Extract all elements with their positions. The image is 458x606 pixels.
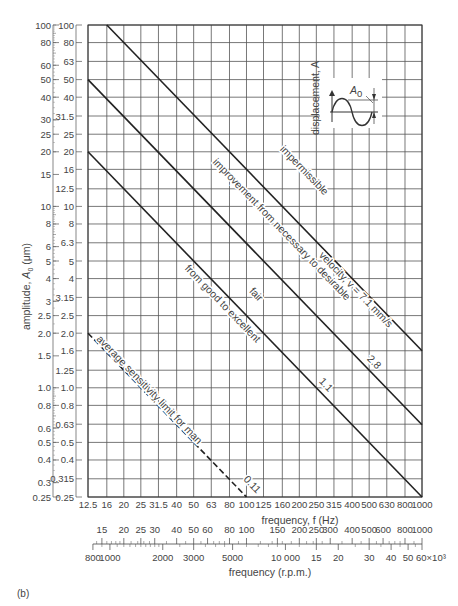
- svg-text:0: 0: [357, 88, 362, 99]
- svg-text:0.11: 0.11: [242, 473, 264, 496]
- svg-text:6: 6: [46, 241, 51, 252]
- svg-text:from good to excellent: from good to excellent: [183, 262, 264, 345]
- svg-text:50: 50: [40, 74, 51, 85]
- x-tick-label: 16: [102, 499, 113, 510]
- x-tick-label: 1000: [411, 499, 432, 510]
- svg-text:1.6: 1.6: [61, 345, 74, 356]
- x-tick-label: 200: [291, 499, 307, 510]
- svg-text:amplitude, A0 (μm): amplitude, A0 (μm): [20, 243, 34, 330]
- x-tick-label: 12.5: [79, 499, 98, 510]
- svg-text:0.5: 0.5: [61, 437, 74, 448]
- svg-text:80: 80: [40, 37, 51, 48]
- svg-text:40: 40: [386, 552, 397, 563]
- svg-text:60: 60: [40, 60, 51, 71]
- svg-text:15: 15: [40, 169, 51, 180]
- x-tick-label: 25: [136, 499, 147, 510]
- svg-text:0.4: 0.4: [61, 454, 74, 465]
- x-tick-label: 400: [344, 499, 360, 510]
- svg-text:25: 25: [136, 524, 147, 535]
- svg-text:0.8: 0.8: [61, 400, 74, 411]
- svg-text:0.3: 0.3: [38, 477, 51, 488]
- svg-text:30: 30: [149, 524, 160, 535]
- svg-text:600: 600: [375, 524, 391, 535]
- svg-text:15: 15: [97, 524, 108, 535]
- svg-text:2.5: 2.5: [38, 310, 51, 321]
- svg-text:30: 30: [364, 552, 375, 563]
- axis-ticks: 12.516202531.540506380100125160200250315…: [33, 20, 446, 564]
- x-tick-label: 315: [326, 499, 342, 510]
- svg-text:12.5: 12.5: [56, 183, 75, 194]
- svg-text:2000: 2000: [152, 552, 173, 563]
- svg-text:63: 63: [63, 56, 74, 67]
- x-tick-label: 50: [188, 499, 199, 510]
- x-tick-label: 160: [274, 499, 290, 510]
- svg-text:1.25: 1.25: [56, 365, 75, 376]
- svg-text:frequency (r.p.m.): frequency (r.p.m.): [229, 566, 311, 578]
- x-tick-label: 63: [206, 499, 217, 510]
- svg-text:3: 3: [46, 296, 51, 307]
- x-tick-label: 100: [239, 499, 255, 510]
- svg-text:20: 20: [63, 146, 74, 157]
- svg-text:0.5: 0.5: [38, 437, 51, 448]
- svg-text:50: 50: [188, 524, 199, 535]
- svg-text:20: 20: [40, 146, 51, 157]
- svg-text:5: 5: [46, 256, 51, 267]
- svg-text:0.4: 0.4: [38, 454, 51, 465]
- svg-text:0.25: 0.25: [33, 492, 52, 503]
- svg-text:0.8: 0.8: [38, 400, 51, 411]
- svg-text:20: 20: [333, 552, 344, 563]
- svg-text:20: 20: [119, 524, 130, 535]
- svg-text:6.3: 6.3: [61, 237, 74, 248]
- vibration-chart: 12.516202531.540506380100125160200250315…: [0, 0, 458, 606]
- svg-text:A: A: [349, 84, 357, 96]
- svg-text:1000: 1000: [99, 552, 120, 563]
- svg-text:displacement, A: displacement, A: [309, 61, 321, 135]
- svg-text:100: 100: [239, 524, 255, 535]
- svg-text:1.5: 1.5: [38, 350, 51, 361]
- svg-text:5000: 5000: [222, 552, 243, 563]
- x-tick-label: 630: [379, 499, 395, 510]
- svg-text:2.0: 2.0: [61, 328, 74, 339]
- svg-text:1.0: 1.0: [38, 382, 51, 393]
- svg-text:10 000: 10 000: [271, 552, 300, 563]
- svg-text:8: 8: [69, 218, 74, 229]
- x-tick-label: 500: [361, 499, 377, 510]
- svg-text:60×10³: 60×10³: [416, 552, 446, 563]
- svg-text:80: 80: [224, 524, 235, 535]
- svg-text:10: 10: [40, 201, 51, 212]
- svg-text:40: 40: [40, 92, 51, 103]
- svg-text:0.6: 0.6: [38, 423, 51, 434]
- x-tick-label: 40: [171, 499, 182, 510]
- svg-text:1.0: 1.0: [61, 382, 74, 393]
- svg-text:100: 100: [35, 20, 51, 31]
- svg-text:frequency, f (Hz): frequency, f (Hz): [262, 514, 339, 526]
- svg-text:1000: 1000: [411, 524, 432, 535]
- svg-text:400: 400: [344, 524, 360, 535]
- x-tick-label: 125: [256, 499, 272, 510]
- svg-text:100: 100: [58, 20, 74, 31]
- x-tick-label: 250: [308, 499, 324, 510]
- svg-text:16: 16: [63, 164, 74, 175]
- svg-text:2.5: 2.5: [61, 310, 74, 321]
- svg-text:60: 60: [202, 524, 213, 535]
- svg-text:3000: 3000: [183, 552, 204, 563]
- svg-text:50: 50: [63, 74, 74, 85]
- svg-text:25: 25: [63, 129, 74, 140]
- x-tick-label: 20: [119, 499, 130, 510]
- svg-text:40: 40: [171, 524, 182, 535]
- figure-caption: (b): [17, 588, 29, 599]
- svg-text:2.0: 2.0: [38, 328, 51, 339]
- svg-text:25: 25: [40, 129, 51, 140]
- svg-text:80: 80: [63, 37, 74, 48]
- svg-text:50: 50: [403, 552, 414, 563]
- displacement-inset: A0displacement, A: [309, 61, 382, 135]
- svg-text:30: 30: [40, 114, 51, 125]
- svg-text:10: 10: [63, 201, 74, 212]
- svg-text:40: 40: [63, 92, 74, 103]
- svg-text:8: 8: [46, 218, 51, 229]
- svg-text:4: 4: [69, 273, 74, 284]
- x-tick-label: 31.5: [149, 499, 168, 510]
- svg-text:average sensitivity limit for: average sensitivity limit for man: [95, 332, 206, 446]
- x-tick-label: 80: [224, 499, 235, 510]
- svg-text:4: 4: [46, 273, 51, 284]
